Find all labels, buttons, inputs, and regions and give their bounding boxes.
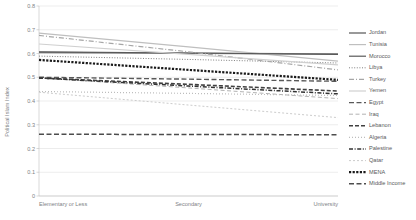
chart-legend: JordanTunisiaMoroccoLibyaTurkeyYemenEgyp…: [349, 29, 405, 186]
legend-label-egypt: Egypt: [369, 99, 384, 105]
y-axis-title: Political Islam Index: [4, 87, 10, 137]
x-axis-category-labels: Elementary or LessSecondaryUniversity: [39, 201, 338, 207]
series-lines: [39, 33, 338, 135]
legend-label-libya: Libya: [369, 64, 383, 70]
legend-label-algeria: Algeria: [369, 134, 387, 140]
y-tick-label: 0: [32, 193, 35, 199]
y-tick-label: 0.7: [27, 27, 35, 33]
legend-label-middle-income: Middle Income: [369, 180, 405, 186]
x-category-label: Elementary or Less: [39, 201, 87, 207]
y-tick-label: 0.3: [27, 122, 35, 128]
y-tick-label: 0.5: [27, 74, 35, 80]
legend-label-morocco: Morocco: [369, 53, 390, 59]
y-tick-label: 0.6: [27, 51, 35, 57]
y-tick-label: 0.1: [27, 169, 35, 175]
legend-label-yemen: Yemen: [369, 87, 386, 93]
political-islam-index-chart: 00.10.20.30.40.50.60.70.8 Elementary or …: [0, 0, 416, 220]
legend-label-mena: MENA: [369, 169, 385, 175]
series-line-palestine: [39, 78, 338, 94]
legend-label-iraq: Iraq: [369, 111, 379, 117]
series-line-mena: [39, 60, 338, 80]
legend-label-palestine: Palestine: [369, 145, 392, 151]
y-tick-label: 0.4: [27, 98, 35, 104]
y-tick-label: 0.8: [27, 3, 35, 9]
chart-canvas: 00.10.20.30.40.50.60.70.8 Elementary or …: [0, 0, 416, 220]
legend-label-turkey: Turkey: [369, 76, 386, 82]
y-tick-label: 0.2: [27, 146, 35, 152]
y-axis-tick-labels: 00.10.20.30.40.50.60.70.8: [27, 3, 35, 199]
legend-label-qatar: Qatar: [369, 157, 383, 163]
gridlines: [39, 6, 338, 196]
x-category-label: Secondary: [175, 201, 202, 207]
legend-label-lebanon: Lebanon: [369, 122, 391, 128]
legend-label-jordan: Jordan: [369, 29, 386, 35]
legend-label-tunisia: Tunisia: [369, 41, 388, 47]
series-line-qatar: [39, 92, 338, 117]
x-category-label: University: [313, 201, 338, 207]
